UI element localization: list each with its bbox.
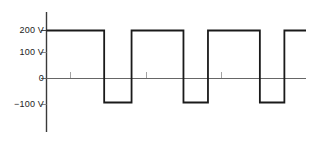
waveform-trace <box>47 31 307 103</box>
y-axis-label-zero: 0 <box>39 73 44 83</box>
y-axis-label-200v: 200 V <box>19 25 44 35</box>
y-axis-label-100v: 100 V <box>19 47 44 57</box>
y-axis-label-neg100v: −100 V <box>14 99 44 109</box>
waveform-plot <box>0 0 309 141</box>
waveform-figure: 200 V 100 V 0 −100 V <box>0 0 309 141</box>
